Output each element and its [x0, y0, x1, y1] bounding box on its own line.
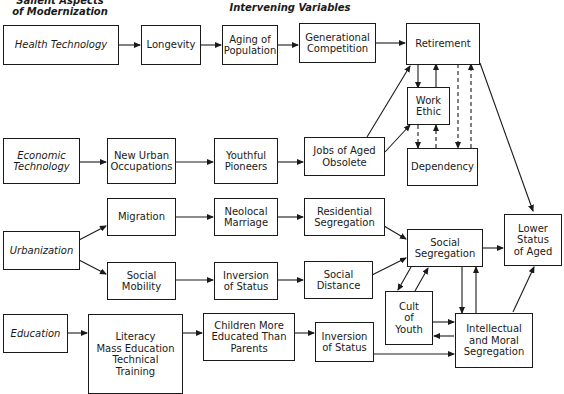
box-inversion-of-status-2: Inversion of Status	[315, 322, 374, 362]
box-urbanization: Urbanization	[3, 231, 80, 270]
box-economic-technology: Economic Technology	[3, 138, 80, 184]
box-migration: Migration	[107, 198, 176, 236]
box-education: Education	[3, 314, 68, 353]
box-social-segregation: Social Segregation	[407, 229, 483, 267]
box-cult-of-youth: Cult of Youth	[385, 291, 433, 345]
box-jobs-of-aged-obsolete: Jobs of Aged Obsolete	[304, 137, 385, 176]
box-neolocal-marriage: Neolocal Marriage	[214, 198, 278, 236]
box-youthful-pioneers: Youthful Pioneers	[214, 138, 278, 184]
box-inversion-of-status-1: Inversion of Status	[214, 262, 278, 300]
box-social-distance: Social Distance	[304, 261, 373, 299]
box-residential-segregation: Residential Segregation	[304, 198, 385, 236]
box-generational-competition: Generational Competition	[299, 23, 376, 63]
box-new-urban-occupations: New Urban Occupations	[107, 138, 176, 184]
box-longevity: Longevity	[141, 25, 201, 65]
box-aging-of-population: Aging of Population	[222, 25, 278, 65]
box-work-ethic: Work Ethic	[407, 87, 450, 125]
box-social-mobility: Social Mobility	[107, 262, 176, 300]
box-health-technology: Health Technology	[3, 25, 119, 65]
box-children-more-educated: Children More Educated Than Parents	[203, 313, 295, 361]
box-dependency: Dependency	[407, 148, 478, 186]
box-intellectual-moral-segregation: Intellectual and Moral Segregation	[455, 313, 533, 368]
box-literacy-mass-education: Literacy Mass Education Technical Traini…	[88, 314, 183, 394]
box-lower-status-of-aged: Lower Status of Aged	[504, 214, 562, 266]
box-retirement: Retirement	[406, 23, 480, 65]
